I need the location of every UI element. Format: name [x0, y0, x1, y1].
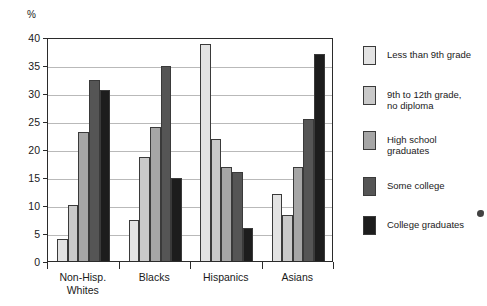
y-axis-tick-mark — [43, 206, 47, 207]
y-axis-tick-label: 30 — [18, 88, 40, 100]
legend-item[interactable]: College graduates — [363, 216, 487, 235]
x-axis-tick-mark — [333, 262, 334, 269]
bar — [150, 127, 161, 261]
x-axis-category-label: Non-Hisp. Whites — [47, 271, 119, 296]
x-axis-tick-mark — [190, 262, 191, 269]
y-axis-tick-label: 20 — [18, 144, 40, 156]
y-axis-tick-mark — [43, 150, 47, 151]
bar — [303, 119, 314, 261]
bar — [100, 90, 111, 261]
y-axis-tick-mark — [43, 178, 47, 179]
legend-item[interactable]: Less than 9th grade — [363, 46, 487, 65]
legend-item[interactable]: High school graduates — [363, 131, 487, 156]
bars-layer — [48, 39, 332, 261]
legend-swatch — [363, 46, 376, 65]
legend-swatch — [363, 216, 376, 235]
y-axis-unit-label: % — [27, 9, 36, 20]
bar — [232, 172, 243, 261]
legend-swatch — [363, 177, 376, 196]
bar — [89, 80, 100, 261]
bar-group — [262, 39, 333, 261]
bar — [129, 220, 140, 261]
bar — [272, 194, 283, 261]
bar — [57, 239, 68, 261]
bar — [68, 205, 79, 261]
x-axis-tick-mark — [47, 262, 48, 269]
y-axis-tick-label: 5 — [18, 228, 40, 240]
y-axis-tick-label: 10 — [18, 200, 40, 212]
bar — [200, 44, 211, 261]
bar — [314, 54, 325, 261]
chart-legend: Less than 9th grade9th to 12th grade, no… — [363, 46, 487, 256]
x-axis-category-label: Asians — [262, 271, 334, 284]
legend-item-label: 9th to 12th grade, no diploma — [387, 86, 461, 111]
bar-group — [48, 39, 119, 261]
bar — [139, 157, 150, 261]
bar — [161, 66, 172, 261]
x-axis-category-label: Hispanics — [190, 271, 262, 284]
y-axis-tick-label: 15 — [18, 172, 40, 184]
legend-item-label: College graduates — [387, 216, 464, 230]
bar — [243, 228, 254, 261]
y-axis-tick-label: 0 — [18, 256, 40, 268]
y-axis-tick-mark — [43, 94, 47, 95]
legend-item[interactable]: Some college — [363, 177, 487, 196]
y-axis-tick-label: 35 — [18, 60, 40, 72]
legend-swatch — [363, 86, 376, 105]
y-axis-tick-label: 25 — [18, 116, 40, 128]
bar — [211, 139, 222, 261]
x-axis-tick-mark — [262, 262, 263, 269]
legend-item-label: Some college — [387, 177, 445, 191]
x-axis-category-label: Blacks — [119, 271, 191, 284]
y-axis-tick-mark — [43, 122, 47, 123]
y-axis-tick-label: 40 — [18, 32, 40, 44]
legend-item-label: Less than 9th grade — [387, 46, 471, 60]
bar-group — [119, 39, 190, 261]
plot-area — [47, 38, 333, 262]
bar — [293, 167, 304, 261]
legend-item[interactable]: 9th to 12th grade, no diploma — [363, 86, 487, 111]
bar-chart-figure: % 0510152025303540 Non-Hisp. WhitesBlack… — [0, 0, 487, 306]
legend-item-label: High school graduates — [387, 131, 437, 156]
y-axis-tick-mark — [43, 66, 47, 67]
bar — [282, 215, 293, 261]
bar — [221, 167, 232, 261]
y-axis-tick-mark — [43, 234, 47, 235]
x-axis-tick-mark — [119, 262, 120, 269]
y-axis-tick-mark — [43, 38, 47, 39]
legend-swatch — [363, 131, 376, 150]
bar — [78, 132, 89, 261]
bar-group — [191, 39, 262, 261]
bar — [171, 178, 182, 261]
